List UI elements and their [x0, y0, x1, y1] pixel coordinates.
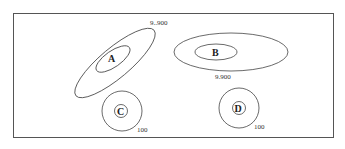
cluster-d: D 100: [219, 88, 265, 131]
cluster-d-value: 100: [254, 123, 265, 131]
cluster-a: A 9..900: [66, 19, 168, 108]
diagram-frame: [14, 14, 334, 138]
cluster-a-value: 9..900: [150, 19, 168, 27]
cluster-a-label: A: [108, 53, 116, 64]
cluster-b-value: 9.900: [215, 73, 231, 81]
cluster-d-label: D: [235, 103, 242, 114]
cluster-b: B 9.900: [174, 33, 288, 81]
cluster-b-outer-contour: [174, 33, 288, 71]
cluster-diagram: A 9..900 B 9.900 C 100 D 100: [0, 0, 345, 149]
cluster-c-value: 100: [137, 126, 148, 134]
cluster-c-label: C: [117, 106, 124, 117]
cluster-c: C 100: [102, 91, 148, 134]
cluster-b-label: B: [212, 47, 219, 58]
